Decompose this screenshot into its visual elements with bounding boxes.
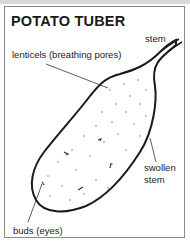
- tuber-outline: [32, 40, 176, 211]
- leader-swollen-stem: [150, 138, 156, 162]
- leader-lenticels: [46, 64, 108, 88]
- potato-tuber-illustration: [0, 0, 190, 241]
